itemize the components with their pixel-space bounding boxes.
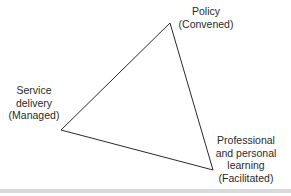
node-service-delivery: Service delivery (Managed) [6,84,62,122]
node-policy-line-1: Policy [176,5,236,18]
node-service-line-3: (Managed) [6,109,62,122]
bottom-divider [0,189,291,193]
node-policy: Policy (Convened) [176,5,236,30]
node-prof-line-2: and personal [214,147,278,160]
node-policy-line-2: (Convened) [176,18,236,31]
node-prof-line-4: (Facilitated) [214,172,278,185]
triangle-shape [61,23,213,170]
node-prof-line-3: learning [214,159,278,172]
node-professional-learning: Professional and personal learning (Faci… [214,134,278,184]
node-service-line-2: delivery [6,97,62,110]
node-service-line-1: Service [6,84,62,97]
node-prof-line-1: Professional [214,134,278,147]
